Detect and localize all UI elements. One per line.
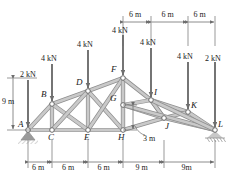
truss-member-fill-FI	[123, 78, 151, 100]
joint-F	[121, 76, 126, 81]
load-L-label: 2 kN	[205, 54, 221, 63]
joint-K	[186, 110, 191, 115]
bottom-dimension-label: 6 m	[98, 163, 110, 172]
load-I-label: 4 kN	[140, 38, 156, 47]
top-dimension-label: 6 m	[129, 10, 141, 19]
truss-member-fill-AB	[28, 104, 52, 130]
dimension-lines	[7, 16, 215, 168]
joint-label-E: E	[84, 132, 90, 142]
top-dimension-label: 6 m	[194, 10, 206, 19]
inner-dimension-label: 3 m	[143, 134, 155, 143]
joint-label-L: L	[218, 119, 223, 129]
joint-label-A: A	[18, 119, 24, 129]
roller-support-hatch	[210, 138, 213, 142]
joint-label-H: H	[118, 132, 125, 142]
joint-label-G: G	[110, 93, 117, 103]
joint-label-B: B	[41, 89, 47, 99]
left-dimension-label: 9 m	[2, 97, 14, 106]
load-K-label: 4 kN	[177, 52, 193, 61]
joint-L	[213, 128, 218, 133]
joint-label-I: I	[154, 87, 157, 97]
joint-label-F: F	[111, 64, 117, 74]
bottom-dimension-label: 6 m	[62, 163, 74, 172]
joint-label-K: K	[191, 100, 197, 110]
roller-support-hatch	[207, 138, 210, 142]
joint-I	[149, 98, 154, 103]
roller-support-hatch	[220, 138, 223, 142]
load-A-label: 2 kN	[20, 70, 36, 79]
top-dimension-label: 6 m	[162, 10, 174, 19]
bottom-dimension-label: 9 m	[136, 163, 148, 172]
roller-support-hatch	[223, 138, 226, 142]
joint-label-C: C	[48, 132, 54, 142]
joint-label-D: D	[76, 77, 83, 87]
load-B-label: 4 kN	[41, 54, 57, 63]
truss-member-fill-HJ	[123, 118, 164, 130]
joint-label-J: J	[165, 121, 169, 131]
roller-support-hatch	[217, 138, 220, 142]
bottom-dimension-label: 9m	[182, 163, 192, 172]
bottom-dimension-label: 6 m	[32, 163, 44, 172]
load-F-label: 4 kN	[112, 26, 128, 35]
joint-D	[86, 89, 91, 94]
truss-diagram-figure: ABCDEFGHIJKL2 kN4 kN4 kN4 kN4 kN4 kN2 kN…	[0, 0, 239, 185]
load-D-label: 4 kN	[77, 40, 93, 49]
joint-J	[162, 116, 167, 121]
joint-B	[50, 102, 55, 107]
